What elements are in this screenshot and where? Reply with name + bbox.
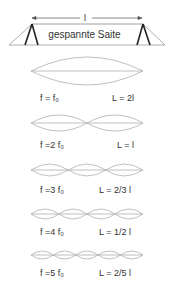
wave-mode-3	[31, 164, 143, 176]
mode-2-frequency: f =2 f₀	[40, 140, 64, 150]
string-label: gespannte Saite	[0, 29, 169, 40]
length-label: l	[84, 13, 86, 23]
mode-4-wavelength: L = 1/2 l	[99, 227, 131, 237]
mode-4-frequency: f =4 f₀	[40, 227, 64, 237]
wave-mode-4	[31, 209, 143, 219]
mode-2-wavelength: L = l	[117, 140, 134, 150]
wave-mode-5	[31, 251, 143, 259]
length-arrow	[32, 17, 142, 20]
mode-1-wavelength: L = 2l	[112, 93, 134, 103]
string-diagram	[0, 0, 169, 283]
mode-5-wavelength: L = 2/5 l	[99, 268, 131, 278]
mode-3-wavelength: L = 2/3 l	[99, 185, 131, 195]
mode-1-frequency: f = f₀	[40, 93, 59, 103]
mode-5-frequency: f =5 f₀	[40, 268, 64, 278]
wave-mode-1	[31, 57, 143, 85]
mode-3-frequency: f =3 f₀	[40, 185, 64, 195]
wave-mode-2	[31, 115, 143, 131]
